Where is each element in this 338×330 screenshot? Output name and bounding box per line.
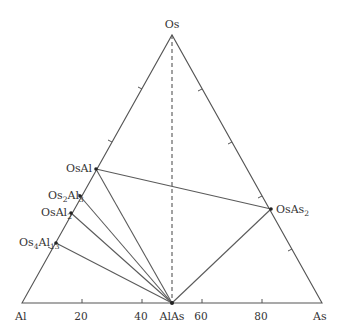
tie-lines — [56, 169, 271, 303]
tick-label-40: 40 — [134, 310, 147, 322]
point-alas — [170, 301, 174, 305]
label-osal: OsAl — [66, 162, 93, 175]
vertex-label-as: As — [312, 310, 327, 323]
ternary-diagram: Os Al As 20 40 60 80 OsAl Os2Al3 OsAl2 O… — [0, 0, 338, 330]
tie-line-osal-osas2 — [96, 169, 271, 209]
label-os4al13: Os4Al13 — [19, 236, 60, 251]
tie-line-osas2-alas — [172, 209, 271, 303]
label-os2al3: Os2Al3 — [48, 189, 84, 204]
label-alas: AlAs — [158, 310, 184, 323]
vertex-label-os: Os — [165, 18, 180, 31]
point-osas2 — [269, 207, 273, 211]
tick-label-20: 20 — [74, 310, 87, 322]
tick-label-60: 60 — [194, 310, 207, 322]
point-osal — [94, 167, 98, 171]
label-osal2: OsAl2 — [41, 206, 72, 221]
right-edge-ticks — [198, 89, 292, 251]
vertex-label-al: Al — [14, 310, 27, 323]
tie-line-os2al3-alas — [80, 196, 172, 303]
tick-label-80: 80 — [254, 310, 267, 322]
label-osas2: OsAs2 — [276, 203, 309, 218]
